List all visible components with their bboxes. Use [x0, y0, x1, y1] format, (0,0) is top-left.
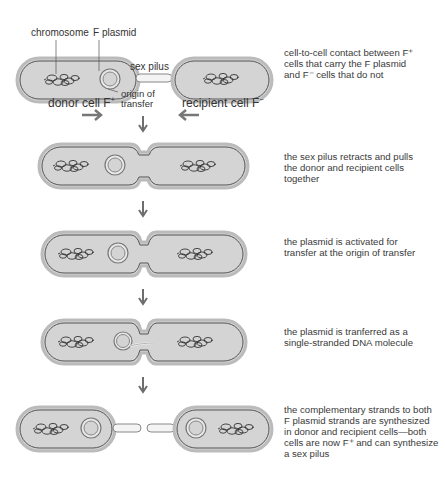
- sex-pilus: [147, 424, 175, 432]
- step-5-description: the complementary strands to both F plas…: [284, 404, 444, 459]
- donor-cell-label: donor cell F+: [48, 96, 115, 110]
- step-1-description: cell-to-cell contact between F⁺ cells th…: [284, 47, 444, 80]
- step-2-illustration: [39, 144, 248, 188]
- down-arrow-icon: [139, 289, 147, 304]
- step-4-description: the plasmid is tranferred as a single-st…: [284, 326, 444, 348]
- chromosome-label: chromosome: [31, 27, 89, 38]
- plasmid-icon: [81, 418, 101, 438]
- f-plasmid-label: F plasmid: [93, 27, 136, 38]
- plasmid-icon: [100, 69, 120, 89]
- plasmid-icon: [108, 243, 128, 263]
- down-arrow-icon: [139, 377, 147, 392]
- plasmid-icon: [186, 418, 206, 438]
- plasmid-icon: [105, 155, 125, 175]
- step-5-illustration: [17, 407, 272, 451]
- step-4-illustration: [42, 320, 246, 364]
- step-3-illustration: [42, 232, 246, 276]
- sex-pilus-label: sex pilus: [130, 61, 169, 72]
- step-2-description: the sex pilus retracts and pulls the don…: [284, 151, 444, 184]
- sex-pilus: [136, 74, 172, 82]
- step-3-description: the plasmid is activated for transfer at…: [284, 236, 444, 258]
- sex-pilus: [113, 424, 141, 432]
- down-arrow-icon: [139, 201, 147, 216]
- step-1-illustration: chromosome F plasmid sex pilus origin of…: [17, 27, 272, 120]
- recipient-cell-label: recipient cell F−: [182, 96, 263, 110]
- right-arrow-icon: [82, 110, 101, 120]
- origin-label-2: transfer: [121, 98, 153, 109]
- down-arrow-icon: [139, 116, 147, 131]
- left-arrow-icon: [180, 110, 199, 120]
